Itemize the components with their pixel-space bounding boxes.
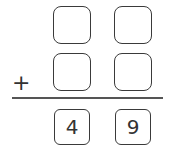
sum-ones-digit: 9 [115,109,151,145]
plus-sign: + [12,72,30,94]
addend2-tens-box[interactable] [53,53,91,91]
addend2-ones-box[interactable] [114,53,152,91]
sum-tens-digit: 4 [54,109,90,145]
addend1-tens-box[interactable] [53,6,91,44]
addend1-ones-box[interactable] [114,6,152,44]
sum-line [12,97,163,99]
